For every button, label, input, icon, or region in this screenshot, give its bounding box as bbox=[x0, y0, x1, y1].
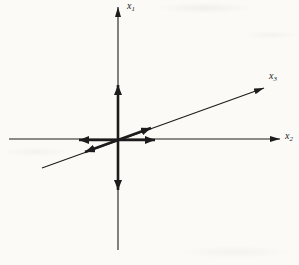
x3-axis-line bbox=[42, 88, 264, 168]
axes-diagram bbox=[0, 0, 299, 265]
x2-axis-label-subscript: 2 bbox=[289, 135, 293, 143]
x3-axis-label: x3 bbox=[269, 71, 277, 81]
x2-axis-label: x2 bbox=[285, 131, 293, 141]
x1-axis-label: x1 bbox=[127, 1, 135, 11]
figure-canvas: x1 x2 x3 bbox=[0, 0, 299, 265]
x3-axis-label-subscript: 3 bbox=[273, 75, 277, 83]
unit-vector-minus-x3 bbox=[85, 140, 118, 152]
x1-axis-label-subscript: 1 bbox=[131, 5, 135, 13]
unit-vector-plus-x3 bbox=[118, 128, 151, 140]
